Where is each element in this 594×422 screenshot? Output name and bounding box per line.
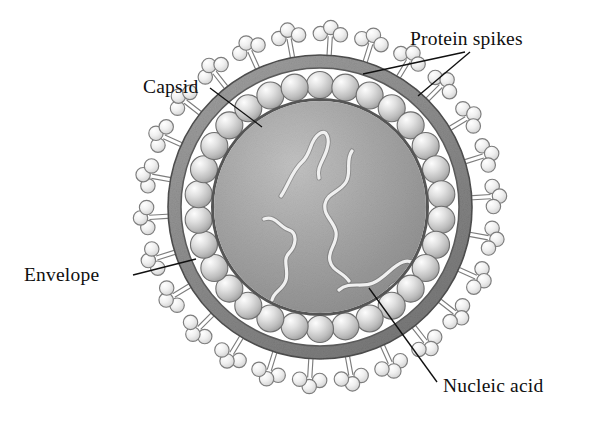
capsomere [423,156,450,183]
spike-lobe [144,159,158,173]
spike-lobe [291,28,305,42]
spike-lobe [411,57,425,71]
capsomere [428,206,455,233]
spike-lobe [467,280,481,294]
spike-lobe [333,28,347,42]
capsomere [281,74,308,101]
spike-lobe [466,119,480,133]
capsomere [332,313,359,340]
capsomere [281,313,308,340]
spike-lobe [292,372,306,386]
spike-lobe [145,242,159,256]
label-nucleic-acid: Nucleic acid [443,375,543,396]
capsomere [356,305,383,332]
capsomere [332,74,359,101]
label-envelope: Envelope [24,264,99,285]
spike-lobe [251,38,265,52]
spike-lobe [486,199,500,213]
spike-lobe [334,372,348,386]
spike-lobe [159,281,173,295]
label-capsid: Capsid [143,76,198,97]
capsomere [307,316,334,343]
spike-lobe [139,200,153,214]
spike-lobe [374,37,388,51]
spike-lobe [214,57,228,71]
capsomere [307,72,334,99]
diagram-canvas: Protein spikes Capsid Envelope Nucleic a… [0,0,594,422]
capsomere [257,82,284,109]
spike-lobe [375,362,389,376]
spike-lobe [183,315,197,329]
spike-lobe [159,120,173,134]
spike-lobe [442,84,456,98]
spike-lobe [481,241,495,255]
label-protein-spikes: Protein spikes [410,28,523,49]
spike-lobe [215,343,229,357]
capsomere [185,206,212,233]
capsomere [190,231,217,258]
spike-lobe [481,158,495,172]
spike-lobe [252,362,266,376]
capsomere [185,181,212,208]
spike-lobe [443,314,457,328]
capsomere [428,181,455,208]
virus-structure-diagram: Protein spikes Capsid Envelope Nucleic a… [0,0,594,422]
